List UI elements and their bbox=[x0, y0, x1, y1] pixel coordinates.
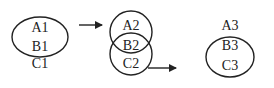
label-c3: C3 bbox=[222, 59, 238, 73]
label-a2: A2 bbox=[122, 19, 139, 33]
label-a3: A3 bbox=[221, 19, 238, 33]
label-b3: B3 bbox=[222, 39, 238, 53]
label-c1: C1 bbox=[32, 57, 48, 71]
label-b2: B2 bbox=[123, 39, 139, 53]
label-b1: B1 bbox=[32, 40, 48, 54]
label-c2: C2 bbox=[123, 57, 139, 71]
label-a1: A1 bbox=[31, 21, 48, 35]
